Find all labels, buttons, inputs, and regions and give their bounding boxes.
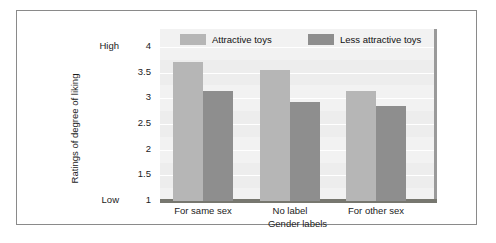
y-tick-label: 3.5 — [125, 66, 151, 77]
bar — [376, 106, 406, 201]
plot-right-border — [434, 29, 437, 202]
y-axis-title: Ratings of degree of liking — [69, 54, 80, 204]
y-tick-label: 1.5 — [125, 168, 151, 179]
legend-label: Attractive toys — [212, 34, 272, 45]
bar — [290, 102, 320, 201]
bar — [346, 91, 376, 201]
y-tick-label: 4 — [125, 40, 151, 51]
bar — [260, 70, 290, 201]
x-tick-label: For other sex — [326, 205, 426, 216]
legend-swatch-icon — [180, 34, 206, 45]
y-axis-low-label: Low — [75, 194, 119, 205]
figure-frame: Ratings of degree of liking Attractive t… — [16, 10, 477, 225]
y-tick-label: 3 — [125, 91, 151, 102]
y-axis-high-label: High — [75, 40, 119, 51]
x-tick-label: For same sex — [153, 205, 253, 216]
figure: Ratings of degree of liking Attractive t… — [0, 0, 496, 243]
x-axis-title: Gender labels — [160, 218, 435, 229]
legend-swatch-icon — [308, 34, 334, 45]
y-tick-label: 2 — [125, 143, 151, 154]
bar — [173, 62, 203, 201]
y-tick-label: 1 — [125, 194, 151, 205]
legend-label: Less attractive toys — [340, 34, 421, 45]
chart-legend: Attractive toys Less attractive toys — [160, 29, 435, 49]
bar — [203, 91, 233, 201]
x-tick-label: No label — [240, 205, 340, 216]
y-tick-label: 2.5 — [125, 117, 151, 128]
legend-entry-attractive-toys: Attractive toys — [180, 32, 272, 46]
legend-entry-less-attractive-toys: Less attractive toys — [308, 32, 421, 46]
